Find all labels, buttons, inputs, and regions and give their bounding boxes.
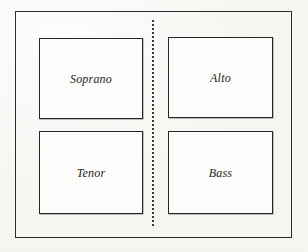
voice-box-label-alto: Alto	[210, 72, 231, 84]
voice-box-alto: Alto	[168, 37, 273, 118]
voice-box-label-bass: Bass	[209, 167, 232, 179]
voice-box-tenor: Tenor	[39, 131, 143, 214]
voice-box-label-tenor: Tenor	[77, 167, 106, 179]
choir-seating-diagram: Soprano Alto Tenor Bass	[0, 0, 308, 252]
voice-box-label-soprano: Soprano	[70, 73, 112, 85]
voice-box-bass: Bass	[168, 131, 273, 214]
voice-box-soprano: Soprano	[39, 38, 143, 119]
center-divider-dotted-line	[152, 20, 154, 228]
